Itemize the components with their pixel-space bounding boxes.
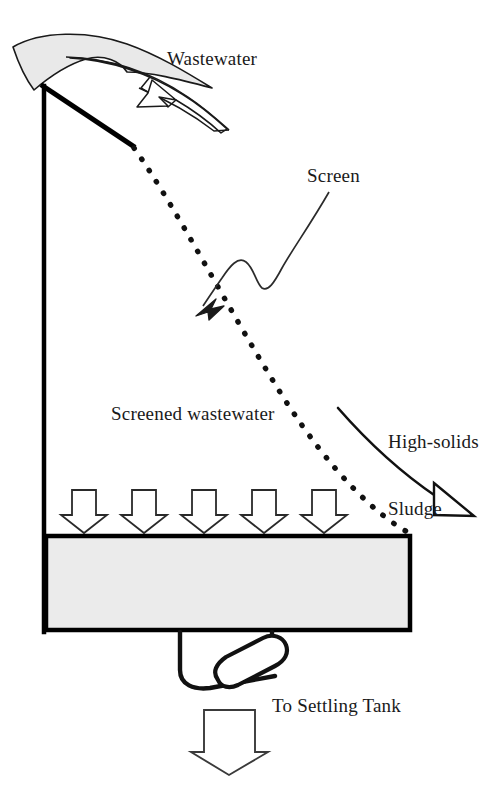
discharge-arrow (191, 710, 268, 775)
label-screen: Screen (307, 165, 360, 187)
percolation-arrow-2 (121, 490, 167, 533)
label-high-solids-line1: High-solids (388, 431, 479, 453)
collection-tank (46, 536, 410, 630)
label-high-solids-line2: Sludge (388, 498, 479, 520)
label-wastewater: Wastewater (167, 48, 257, 70)
label-high-solids-sludge: High-solids Sludge (388, 386, 479, 565)
screen-callout-leader (203, 192, 329, 306)
percolation-arrow-4 (241, 490, 287, 533)
screen-callout-arrowhead (196, 299, 224, 320)
label-to-settling-tank: To Settling Tank (272, 695, 401, 717)
outlet-valve-band (215, 636, 287, 687)
screen-dotted-curve (134, 148, 411, 534)
percolation-arrow-3 (181, 490, 227, 533)
label-screened-wastewater: Screened wastewater (111, 403, 275, 425)
structure-inclined-beam (43, 86, 133, 146)
diagram-canvas: Wastewater Screen High-solids Sludge Scr… (0, 0, 498, 796)
percolation-arrow-1 (61, 490, 107, 533)
percolation-arrow-5 (301, 490, 347, 533)
percolation-arrow-group (61, 490, 347, 533)
